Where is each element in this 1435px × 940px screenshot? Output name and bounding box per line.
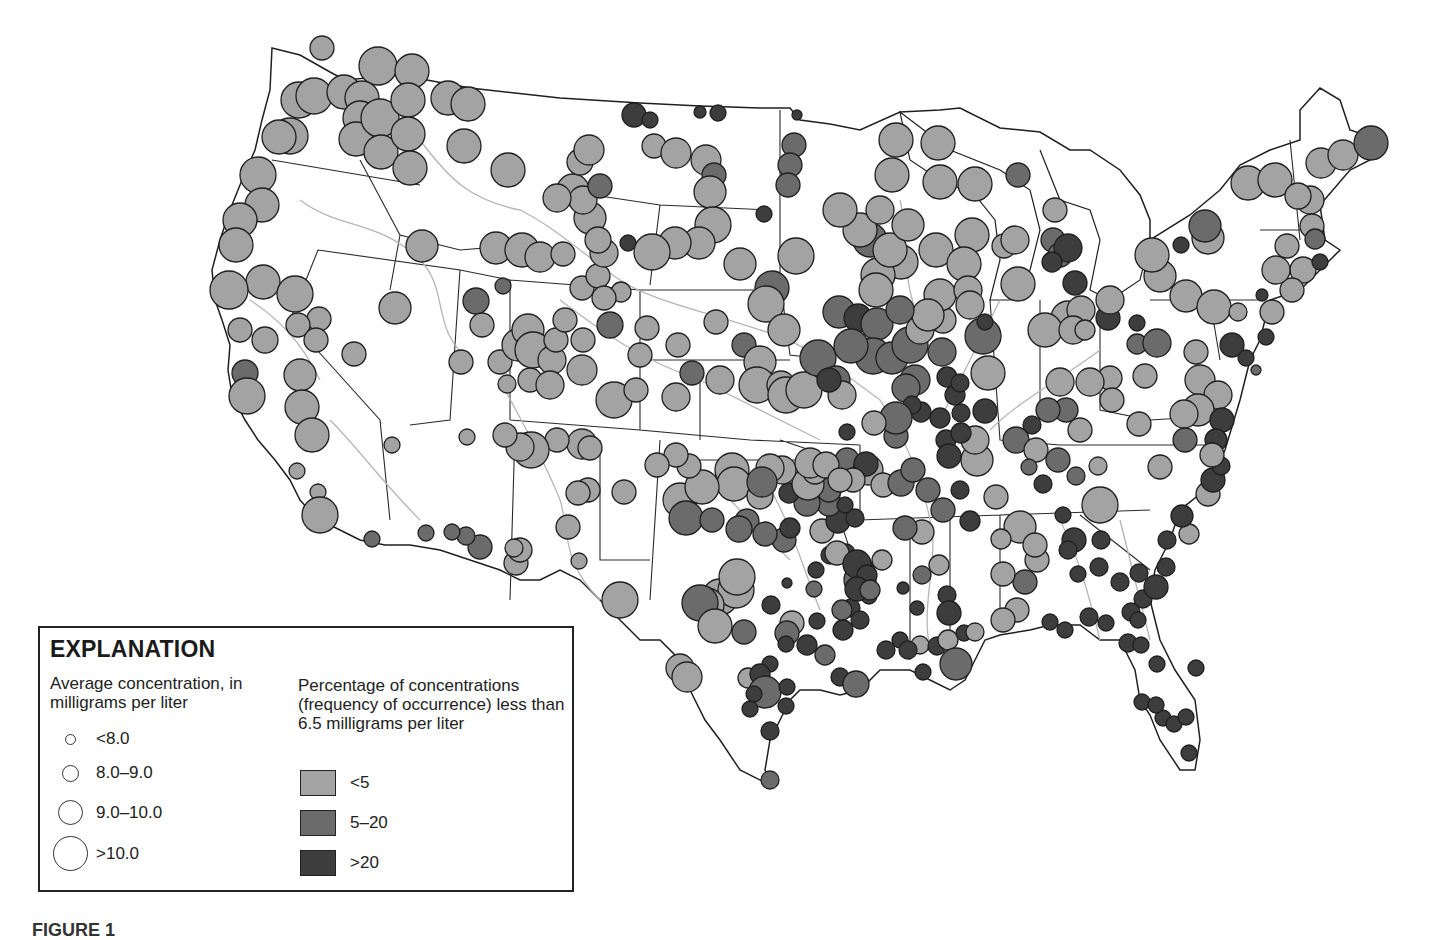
site-marker xyxy=(915,664,931,680)
site-marker xyxy=(698,609,732,643)
site-marker xyxy=(284,359,316,391)
site-marker xyxy=(556,515,580,539)
site-marker xyxy=(566,481,590,505)
site-marker xyxy=(817,368,841,392)
site-marker xyxy=(1024,438,1048,462)
site-marker xyxy=(470,313,494,337)
size-class-gt10: >10.0 xyxy=(50,836,139,871)
swatch-light-gray xyxy=(300,770,336,796)
site-marker xyxy=(444,524,460,540)
site-marker xyxy=(302,497,338,533)
site-marker xyxy=(451,87,485,121)
site-marker xyxy=(1275,234,1299,258)
site-marker xyxy=(1001,226,1029,254)
site-marker xyxy=(1046,368,1074,396)
site-marker xyxy=(418,525,434,541)
site-marker xyxy=(843,671,869,697)
figure-caption: FIGURE 1 xyxy=(32,920,115,940)
site-marker xyxy=(815,645,835,665)
site-marker xyxy=(860,580,880,600)
site-marker xyxy=(447,129,481,163)
site-marker xyxy=(1070,566,1086,582)
site-marker xyxy=(620,235,636,251)
site-marker xyxy=(1285,183,1311,209)
site-marker xyxy=(704,310,728,334)
site-marker xyxy=(782,578,792,588)
site-marker xyxy=(872,550,892,570)
site-marker xyxy=(364,531,380,547)
site-marker xyxy=(252,327,278,353)
site-marker xyxy=(866,196,894,224)
swatch-dark-gray xyxy=(300,850,336,876)
site-marker xyxy=(634,234,670,270)
site-marker xyxy=(893,516,917,540)
site-marker xyxy=(1096,286,1124,314)
site-marker xyxy=(1188,660,1204,676)
site-marker xyxy=(1057,622,1073,638)
site-marker xyxy=(493,423,517,447)
site-marker xyxy=(951,481,969,499)
site-marker xyxy=(973,399,997,423)
site-marker xyxy=(574,135,604,165)
site-marker xyxy=(958,167,992,201)
site-marker xyxy=(551,242,575,266)
site-marker xyxy=(571,328,595,352)
site-marker xyxy=(379,292,411,324)
site-marker xyxy=(1135,238,1169,272)
site-marker xyxy=(1021,459,1037,475)
site-marker xyxy=(1046,448,1070,472)
site-marker xyxy=(1013,570,1037,594)
site-marker xyxy=(778,636,794,652)
color-legend-title: Percentage of concentrations (frequency … xyxy=(298,676,573,733)
site-marker xyxy=(666,333,690,357)
site-marker xyxy=(1229,303,1247,321)
site-marker xyxy=(746,686,762,702)
site-marker xyxy=(359,47,397,85)
site-marker xyxy=(578,436,602,460)
site-marker xyxy=(1034,475,1052,493)
site-marker xyxy=(977,314,993,330)
site-marker xyxy=(586,264,610,288)
site-marker xyxy=(991,608,1015,632)
color-class-5-20: 5–20 xyxy=(300,810,388,836)
size-class-9-10: 9.0–10.0 xyxy=(50,800,162,825)
site-marker xyxy=(875,158,909,192)
site-marker xyxy=(928,338,956,366)
site-marker xyxy=(295,418,329,452)
site-marker xyxy=(828,468,852,492)
site-marker xyxy=(553,308,577,332)
site-marker xyxy=(761,722,779,740)
site-marker xyxy=(839,424,855,440)
site-marker xyxy=(1080,608,1098,626)
site-marker xyxy=(837,497,853,513)
site-marker xyxy=(921,126,955,160)
site-marker xyxy=(1076,368,1104,396)
site-marker xyxy=(859,273,893,307)
site-marker xyxy=(899,641,917,659)
site-marker xyxy=(952,404,970,422)
site-marker xyxy=(833,620,853,640)
site-marker xyxy=(797,635,817,655)
site-marker xyxy=(1042,252,1062,272)
site-marker xyxy=(571,553,587,569)
site-marker xyxy=(923,165,957,199)
site-marker xyxy=(1354,126,1388,160)
site-marker xyxy=(768,314,800,346)
site-marker xyxy=(1133,364,1157,388)
site-marker xyxy=(307,307,331,331)
site-marker xyxy=(1158,531,1176,549)
swatch-medium-gray xyxy=(300,810,336,836)
site-marker xyxy=(612,480,636,504)
site-marker xyxy=(1130,564,1148,582)
site-marker xyxy=(1262,256,1290,284)
site-marker xyxy=(1023,533,1047,557)
site-marker xyxy=(240,157,276,193)
site-marker xyxy=(808,562,824,578)
site-marker xyxy=(706,366,734,394)
site-marker xyxy=(1173,428,1197,452)
site-marker xyxy=(1157,558,1175,576)
site-marker xyxy=(747,467,777,497)
site-marker xyxy=(1055,507,1071,523)
site-marker xyxy=(1092,531,1110,549)
site-marker xyxy=(219,228,253,262)
